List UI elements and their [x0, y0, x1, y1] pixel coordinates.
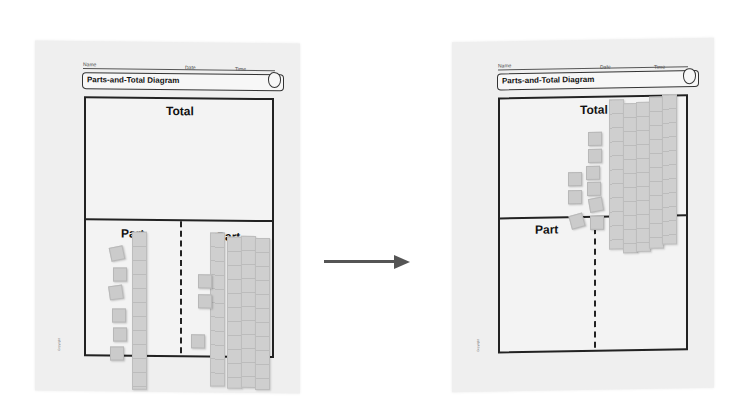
tens-rod	[227, 237, 242, 389]
part-divider	[180, 221, 182, 353]
copyright-text: Copyright	[476, 297, 480, 352]
unit-cube	[587, 182, 601, 196]
unit-cube	[590, 216, 604, 230]
diagram-title: Parts-and-Total Diagram	[87, 75, 179, 85]
unit-cube	[191, 334, 205, 348]
arrow-shaft	[324, 260, 396, 263]
unit-cube	[198, 294, 212, 308]
tens-rod	[210, 232, 225, 386]
tens-rod	[662, 94, 677, 244]
part-divider	[594, 218, 596, 348]
transformation-arrow	[324, 255, 412, 269]
unit-cube	[588, 132, 602, 146]
unit-cube	[568, 172, 582, 186]
tens-rod	[255, 238, 270, 390]
title-box: Parts-and-Total Diagram	[82, 72, 284, 91]
tens-rod	[132, 232, 147, 390]
total-part-divider	[86, 218, 272, 222]
unit-cube	[110, 346, 124, 360]
arrow-right-icon	[394, 255, 410, 269]
unit-cube	[109, 245, 126, 261]
left-worksheet: Name Date Time Parts-and-Total Diagram T…	[35, 41, 300, 394]
total-label: Total	[166, 104, 194, 118]
right-worksheet: Name Date Time Parts-and-Total Diagram T…	[452, 38, 714, 393]
apple-icon	[683, 68, 696, 84]
unit-cube	[588, 197, 604, 213]
apple-icon	[268, 72, 281, 88]
unit-cube	[198, 274, 212, 288]
diagram-title: Parts-and-Total Diagram	[502, 75, 594, 86]
title-box: Parts-and-Total Diagram	[497, 70, 699, 91]
copyright-text: Copyright	[57, 291, 61, 351]
unit-cube	[568, 190, 582, 204]
tens-rod	[609, 99, 624, 249]
name-label: Name	[83, 61, 96, 67]
unit-cube	[586, 166, 600, 180]
unit-cube	[108, 285, 124, 301]
unit-cube	[112, 308, 126, 322]
unit-cube	[113, 327, 127, 341]
header-line	[83, 68, 275, 71]
unit-cube	[113, 267, 127, 281]
unit-cube	[588, 149, 602, 163]
part-left-label: Part	[535, 222, 558, 236]
tens-rod	[241, 236, 256, 388]
total-label: Total	[580, 103, 608, 117]
name-label: Name	[498, 62, 511, 68]
